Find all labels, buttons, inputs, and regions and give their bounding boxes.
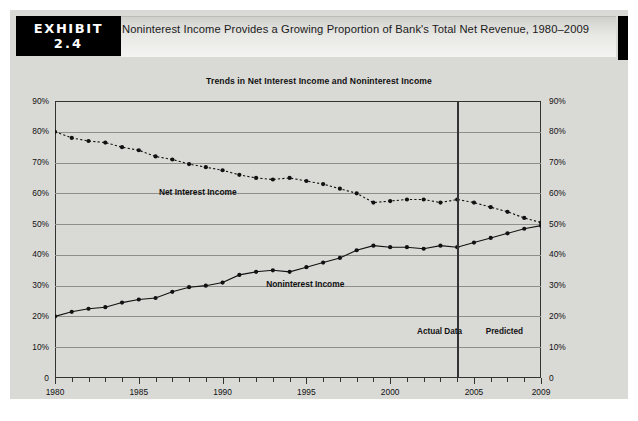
x-axis-tick [72,378,73,382]
data-point [438,200,442,204]
series-line-0 [55,132,541,223]
chart-title: Trends in Net Interest Income and Nonint… [0,76,638,86]
data-point [254,270,258,274]
x-axis-tick-label: 2009 [521,387,561,397]
x-axis-tick [424,378,425,382]
data-point [304,179,308,183]
noninterest-income-label: Noninterest Income [266,279,344,289]
data-point [55,130,57,134]
data-point [355,191,359,195]
exhibit-title: Noninterest Income Provides a Growing Pr… [122,23,602,35]
data-point [237,173,241,177]
x-axis-tick [223,378,224,384]
y-axis-tick-label-right: 30% [549,280,593,290]
y-axis-tick-label-right: 50% [549,219,593,229]
data-point [304,265,308,269]
data-point [338,256,342,260]
x-axis-tick [440,378,441,382]
x-axis-tick [357,378,358,382]
data-point [355,248,359,252]
x-axis-tick [189,378,190,382]
y-axis-tick-label-right: 60% [549,188,593,198]
x-axis-tick [89,378,90,382]
data-point [472,200,476,204]
y-axis-tick-label-left: 50% [5,219,49,229]
x-axis-tick [239,378,240,382]
data-point [170,290,174,294]
x-axis-tick-label: 2005 [454,387,494,397]
x-axis-tick-label: 1995 [286,387,326,397]
predicted: Predicted [486,327,523,336]
data-point [271,268,275,272]
x-axis-tick [122,378,123,382]
x-axis-tick [457,378,458,382]
exhibit-container: EXHIBIT 2.4 Noninterest Income Provides … [0,0,638,421]
y-axis-tick-label-right: 40% [549,249,593,259]
data-point [489,236,493,240]
data-point [103,305,107,309]
x-axis-tick [156,378,157,382]
data-point [321,182,325,186]
data-point [187,162,191,166]
data-point [137,297,141,301]
data-point [405,245,409,249]
data-point [422,247,426,251]
x-axis-tick [323,378,324,382]
x-axis-tick [407,378,408,382]
x-axis-tick [139,378,140,384]
data-point [153,154,157,158]
net-interest-income-label: Net Interest Income [159,187,237,197]
y-axis-tick-label-right: 10% [549,342,593,352]
data-point [86,139,90,143]
exhibit-badge-number: 2.4 [16,37,121,51]
x-axis-tick [541,378,542,384]
data-point [153,296,157,300]
x-axis-tick [524,378,525,382]
x-axis-tick [340,378,341,382]
forecast-divider-line [457,101,458,378]
data-point [70,310,74,314]
data-point [405,197,409,201]
y-axis-tick-label-left: 0 [5,373,49,383]
x-axis-tick-label: 1990 [203,387,243,397]
data-point [120,300,124,304]
x-axis-tick [105,378,106,382]
data-point [103,140,107,144]
data-point [489,205,493,209]
data-point [388,245,392,249]
exhibit-badge-word: EXHIBIT [16,22,121,36]
page-margin-bottom [0,399,638,421]
data-point [55,314,57,318]
y-axis-tick-label-right: 0 [549,373,593,383]
x-axis-tick [373,378,374,382]
data-point [522,227,526,231]
data-point [321,260,325,264]
y-axis-tick-label-left: 60% [5,188,49,198]
page-margin-top [0,0,638,10]
data-point [220,280,224,284]
x-axis-tick [507,378,508,382]
data-point [338,187,342,191]
data-point [204,284,208,288]
data-point [237,273,241,277]
data-point [522,216,526,220]
page-margin-left [0,0,10,421]
data-point [438,244,442,248]
series-line-1 [55,226,541,317]
y-axis-tick-label-left: 40% [5,249,49,259]
x-axis-tick [491,378,492,382]
data-point [220,168,224,172]
x-axis-tick [273,378,274,382]
data-point [271,177,275,181]
data-point [170,157,174,161]
data-point [472,240,476,244]
data-point [505,231,509,235]
data-point [371,200,375,204]
x-axis-tick-label: 1980 [35,387,75,397]
x-axis-tick [474,378,475,384]
data-point [505,210,509,214]
y-axis-tick-label-left: 90% [5,96,49,106]
page-margin-right [628,0,638,421]
data-point [120,145,124,149]
x-axis-tick [290,378,291,382]
